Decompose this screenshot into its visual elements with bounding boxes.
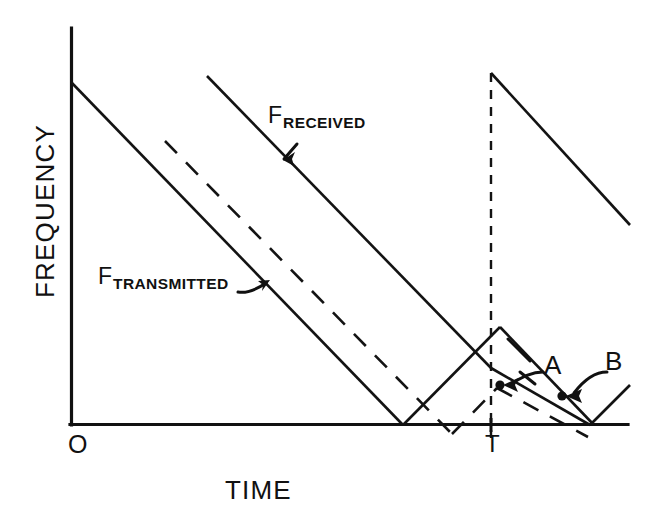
label-y-axis-title: FREQUENCY bbox=[32, 138, 58, 298]
series-f-transmitted bbox=[71, 82, 594, 425]
label-x-tick-t: T bbox=[485, 432, 500, 456]
arrow-f-transmitted bbox=[238, 280, 270, 292]
f-transmitted-ramp-down bbox=[71, 82, 403, 425]
label-f-received-subscript: RECEIVED bbox=[283, 115, 365, 131]
frequency-time-diagram: FRECEIVED FTRANSMITTED O T TIME FREQUENC… bbox=[0, 0, 656, 531]
f-transmitted-ramp-up bbox=[403, 327, 500, 425]
a-hatch-upper bbox=[508, 339, 530, 361]
label-f-transmitted-subscript: TRANSMITTED bbox=[113, 276, 228, 292]
label-f-received-symbol: F bbox=[268, 104, 282, 127]
label-point-a: A bbox=[544, 352, 561, 378]
label-x-axis-title: TIME bbox=[225, 477, 292, 503]
label-origin: O bbox=[68, 432, 87, 457]
f-received-peak-ramp bbox=[491, 73, 630, 225]
label-f-received: FRECEIVED bbox=[268, 104, 365, 127]
label-f-transmitted: FTRANSMITTED bbox=[98, 265, 228, 288]
f-received-retrace-up bbox=[590, 385, 630, 425]
arrow-b bbox=[566, 372, 607, 403]
intersection-dot-b bbox=[557, 391, 566, 400]
label-f-transmitted-symbol: F bbox=[98, 265, 112, 288]
label-point-b: B bbox=[605, 348, 622, 374]
